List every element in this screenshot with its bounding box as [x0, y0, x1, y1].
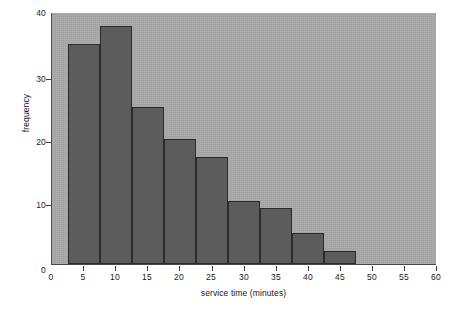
bar-bin-4: [164, 139, 196, 265]
bar-bin-7: [260, 208, 292, 264]
x-tick-mark-35: [276, 266, 277, 271]
x-tick-mark-20: [179, 266, 180, 271]
bar-bin-2: [100, 26, 132, 264]
x-tick-mark-25: [212, 266, 213, 271]
x-tick-label-55: 55: [392, 272, 416, 282]
x-tick-mark-30: [244, 266, 245, 271]
x-tick-label-40: 40: [296, 272, 320, 282]
x-tick-label-45: 45: [328, 272, 352, 282]
x-tick-label-15: 15: [135, 272, 159, 282]
x-tick-mark-40: [308, 266, 309, 271]
x-tick-label-60: 60: [424, 272, 448, 282]
x-tick-label-0: 0: [39, 272, 63, 282]
y-tick-label-40: 40: [24, 8, 46, 18]
x-tick-label-5: 5: [71, 272, 95, 282]
bar-bin-3: [132, 107, 164, 264]
x-tick-mark-60: [436, 266, 437, 271]
x-tick-mark-50: [372, 266, 373, 271]
bar-bin-9: [324, 251, 356, 264]
x-tick-label-25: 25: [199, 272, 223, 282]
bar-bin-8: [292, 233, 324, 264]
y-tick-label-20: 20: [24, 137, 46, 147]
bar-bin-5: [196, 157, 228, 264]
x-tick-label-10: 10: [103, 272, 127, 282]
x-tick-mark-55: [404, 266, 405, 271]
x-tick-mark-10: [115, 266, 116, 271]
x-tick-label-35: 35: [264, 272, 288, 282]
x-tick-label-50: 50: [360, 272, 384, 282]
x-tick-label-30: 30: [232, 272, 256, 282]
x-tick-mark-5: [83, 266, 84, 271]
y-tick-label-30: 30: [24, 74, 46, 84]
x-tick-mark-15: [147, 266, 148, 271]
histogram-chart: frequency 40 30 20 10 0 0 5 10 15 20 25 …: [0, 0, 451, 309]
bar-bin-1: [68, 44, 100, 264]
plot-area: [51, 13, 436, 265]
x-tick-label-20: 20: [167, 272, 191, 282]
x-tick-mark-45: [340, 266, 341, 271]
bar-bin-6: [228, 201, 260, 264]
y-axis-label: frequency: [21, 83, 31, 143]
x-axis-label: service time (minutes): [51, 288, 436, 298]
y-tick-label-10: 10: [24, 200, 46, 210]
